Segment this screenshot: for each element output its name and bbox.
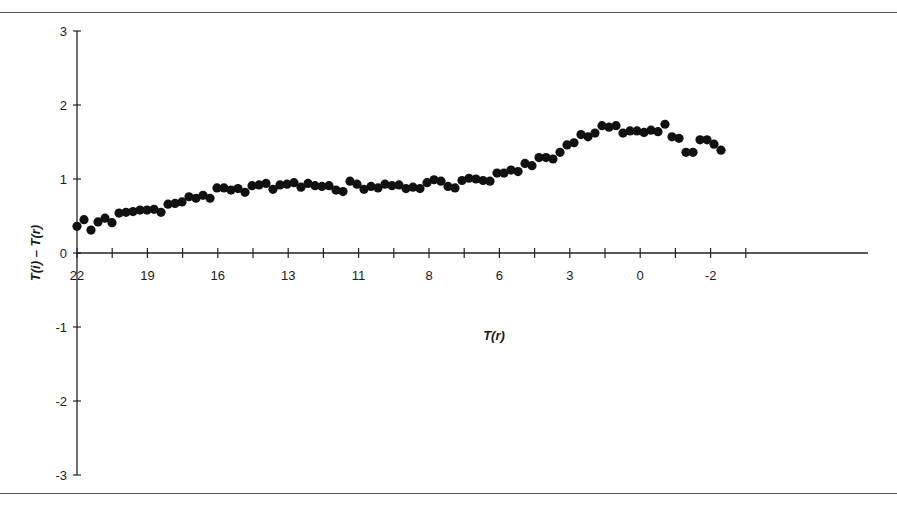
y-tick-label: 0 (60, 246, 67, 261)
y-tick-label: -3 (55, 468, 67, 483)
data-point (569, 138, 578, 147)
x-tick-label: 13 (281, 268, 295, 283)
data-point (660, 120, 669, 129)
data-point (107, 218, 116, 227)
data-point (205, 194, 214, 203)
data-point (338, 187, 347, 196)
y-tick-label: 2 (60, 98, 67, 113)
x-axis-title: T(r) (483, 328, 505, 343)
data-point (513, 167, 522, 176)
data-points (72, 120, 725, 235)
data-point (261, 179, 270, 188)
data-point (527, 161, 536, 170)
data-point (555, 148, 564, 157)
data-point (156, 208, 165, 217)
x-tick-label: 11 (352, 268, 366, 283)
data-point (485, 177, 494, 186)
x-tick-label: 22 (70, 268, 84, 283)
data-point (415, 184, 424, 193)
y-tick-label: -2 (55, 394, 67, 409)
x-tick-label: -2 (705, 268, 717, 283)
data-point (653, 127, 662, 136)
x-tick-label: 16 (211, 268, 225, 283)
x-tick-label: 6 (496, 268, 503, 283)
data-point (590, 129, 599, 138)
data-point (86, 225, 95, 234)
data-point (548, 154, 557, 163)
x-axis: 22191613118630-2 (70, 248, 868, 283)
x-tick-label: 3 (566, 268, 573, 283)
data-point (72, 222, 81, 231)
data-point (79, 215, 88, 224)
x-tick-label: 0 (637, 268, 644, 283)
y-tick-label: 3 (60, 24, 67, 39)
y-tick-label: -1 (55, 320, 67, 335)
x-tick-label: 8 (425, 268, 432, 283)
y-axis-title: T(i) – T(r) (28, 225, 43, 281)
data-point (709, 140, 718, 149)
scatter-chart: 3210-1-2-3 22191613118630-2 T(r) T(i) – … (0, 0, 897, 511)
data-point (674, 134, 683, 143)
x-tick-label: 19 (140, 268, 154, 283)
y-tick-label: 1 (60, 172, 67, 187)
data-point (611, 121, 620, 130)
data-point (450, 183, 459, 192)
data-point (716, 146, 725, 155)
data-point (240, 188, 249, 197)
data-point (688, 148, 697, 157)
